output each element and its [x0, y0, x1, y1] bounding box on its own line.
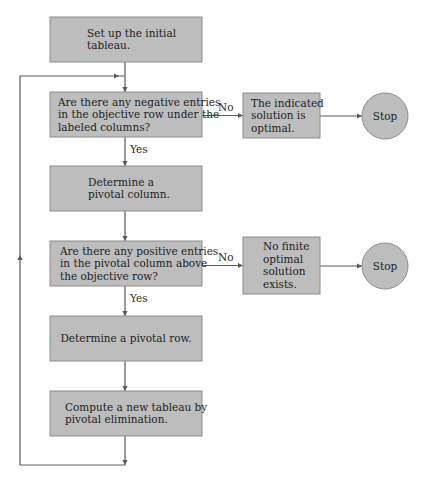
- node-text-line: exists.: [263, 278, 297, 290]
- connector-no-finite-to-stop-2: [320, 263, 362, 268]
- edge-label-yes: Yes: [129, 292, 148, 304]
- node-text-line: The indicated: [251, 97, 324, 109]
- node-neg-check: Are there any negative entriesin the obj…: [50, 92, 220, 137]
- connector-optimal-to-stop-1: [320, 113, 362, 118]
- node-text-line: tableau.: [87, 39, 130, 51]
- arrowhead-down-icon: [122, 87, 127, 92]
- node-text-line: Compute a new tableau by: [65, 401, 207, 413]
- node-text-line: Stop: [373, 260, 398, 272]
- arrowhead-down-icon: [122, 236, 127, 241]
- node-text-line: solution: [263, 265, 306, 277]
- node-text-line: Stop: [373, 110, 398, 122]
- node-text-line: Determine a pivotal row.: [60, 332, 191, 344]
- node-pivot-col: Determine apivotal column.: [50, 166, 202, 211]
- node-stop-1: Stop: [362, 93, 408, 139]
- arrowhead-up-icon: [17, 255, 22, 260]
- arrowhead-down-icon: [122, 311, 127, 316]
- node-text-line: in the pivotal column above: [60, 257, 207, 269]
- edge-label-no: No: [218, 251, 234, 263]
- connector-pivot-col-to-pos-check: [122, 211, 127, 241]
- node-text-line: Are there any positive entries: [59, 245, 218, 257]
- arrowhead-down-icon: [122, 386, 127, 391]
- node-pivot-row: Determine a pivotal row.: [50, 316, 202, 361]
- node-setup: Set up the initialtableau.: [50, 17, 202, 62]
- node-text-line: optimal: [263, 253, 304, 265]
- arrowhead-down-icon: [122, 460, 127, 465]
- node-no-finite: No finiteoptimalsolutionexists.: [243, 237, 320, 294]
- node-compute: Compute a new tableau bypivotal eliminat…: [50, 391, 207, 436]
- node-text-line: pivotal elimination.: [65, 413, 168, 425]
- node-text-line: pivotal column.: [88, 188, 170, 200]
- node-text-line: optimal.: [251, 122, 295, 134]
- connector-pos-check-to-pivot-row: Yes: [122, 286, 147, 316]
- connector-neg-check-to-pivot-col: Yes: [122, 137, 147, 166]
- connector-setup-to-neg-check: [122, 62, 127, 92]
- node-text-line: No finite: [263, 240, 309, 252]
- node-text-line: the objective row?: [60, 270, 158, 282]
- node-text-line: labeled columns?: [58, 121, 151, 133]
- arrowhead-right-icon: [238, 263, 243, 268]
- edge-label-yes: Yes: [129, 143, 148, 155]
- arrowhead-right-icon: [357, 263, 362, 268]
- arrowhead-right-icon: [357, 113, 362, 118]
- node-text-line: Determine a: [88, 176, 154, 188]
- connector-pivot-row-to-compute: [122, 361, 127, 391]
- node-text-line: solution is: [251, 109, 306, 121]
- arrowhead-down-icon: [122, 161, 127, 166]
- arrowhead-right-icon: [114, 73, 119, 78]
- node-stop-2: Stop: [362, 243, 408, 289]
- node-text-line: in the objective row under the: [58, 108, 219, 120]
- node-text-line: Are there any negative entries: [57, 96, 220, 108]
- node-text-line: Set up the initial: [87, 27, 177, 39]
- node-optimal: The indicatedsolution isoptimal.: [243, 93, 324, 138]
- node-pos-check: Are there any positive entriesin the piv…: [50, 241, 218, 286]
- arrowhead-right-icon: [238, 113, 243, 118]
- simplex-flowchart: NoYesNoYes Set up the initialtableau.Are…: [0, 0, 423, 483]
